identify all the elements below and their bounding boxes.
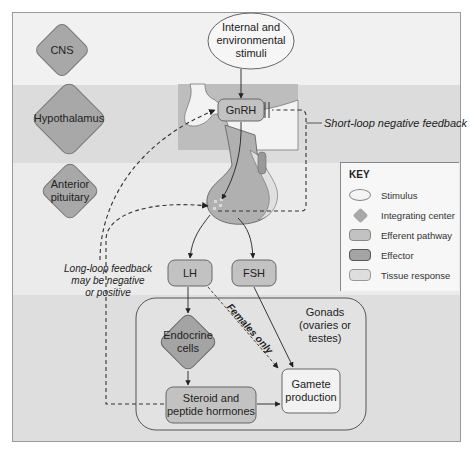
stimulus-swatch-icon <box>349 189 371 201</box>
long-loop-feedback-label: Long-loop feedback may be negative or po… <box>58 263 158 299</box>
steroid-hormones-label: Steroid and peptide hormones <box>166 392 256 418</box>
short-loop-feedback-label: Short-loop negative feedback <box>324 117 470 130</box>
key-title: KEY <box>349 169 370 180</box>
fsh-label: FSH <box>232 267 276 280</box>
tissue-response-swatch-icon <box>349 269 371 281</box>
lh-label: LH <box>168 267 212 280</box>
endocrine-cells-label: Endocrine cells <box>163 329 213 355</box>
gamete-production-label: Gamete production <box>282 378 340 404</box>
key-item-integrating-center: Integrating center <box>349 207 455 223</box>
key-item-tissue-response: Tissue response <box>349 267 450 283</box>
anterior-pituitary-label: Anterior pituitary <box>40 178 100 204</box>
cns-label: CNS <box>42 44 82 57</box>
hypothalamus-label: Hypothalamus <box>20 112 118 125</box>
key-item-effector: Effector <box>349 247 414 263</box>
key-item-stimulus: Stimulus <box>349 187 417 203</box>
efferent-swatch-icon <box>349 229 371 241</box>
gnrh-label: GnRH <box>218 104 264 117</box>
gonads-title: Gonads (ovaries or testes) <box>284 306 366 345</box>
key-item-efferent-pathway: Efferent pathway <box>349 227 452 243</box>
diamond-swatch-icon <box>349 208 371 222</box>
stimulus-label: Internal and environmental stimuli <box>208 21 294 60</box>
effector-swatch-icon <box>349 249 371 261</box>
legend-key: KEY Stimulus Integrating center Efferent… <box>340 162 459 291</box>
